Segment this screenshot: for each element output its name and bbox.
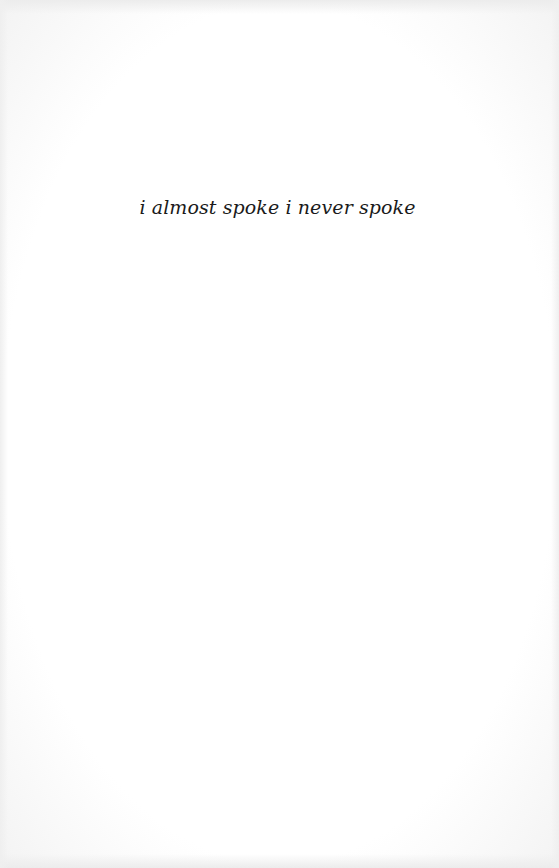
page-edge-top: [0, 0, 559, 14]
page-edge-right: [551, 0, 559, 868]
page-edge-bottom: [0, 854, 559, 868]
page-edge-left: [0, 0, 8, 868]
poem-line: i almost spoke i never spoke: [0, 196, 559, 218]
book-page: i almost spoke i never spoke: [0, 0, 559, 868]
